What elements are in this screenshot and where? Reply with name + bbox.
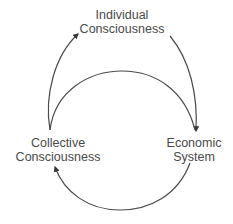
node-economic-system: Economic System — [158, 136, 230, 164]
node-individual-consciousness: Individual Consciousness — [72, 8, 172, 36]
arc-collective-to-economic — [50, 71, 195, 130]
arrow-individual-to-economic — [170, 36, 196, 131]
node-collective-consciousness: Collective Consciousness — [8, 136, 108, 164]
arrow-economic-to-collective — [55, 163, 190, 210]
node-label-line: Consciousness — [72, 22, 172, 36]
node-label-line: System — [158, 150, 230, 164]
node-label-line: Economic — [158, 136, 230, 150]
node-label-line: Collective — [8, 136, 108, 150]
node-label-line: Individual — [72, 8, 172, 22]
node-label-line: Consciousness — [8, 150, 108, 164]
